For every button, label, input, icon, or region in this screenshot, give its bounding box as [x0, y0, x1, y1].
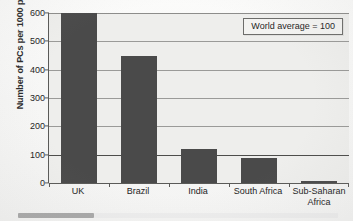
y-tick-mark-600: [45, 12, 49, 13]
bar-india: [181, 149, 217, 183]
y-tick-label-300: 300: [30, 93, 45, 103]
y-tick-mark-200: [45, 126, 49, 127]
x-axis-label-brazil: Brazil: [108, 186, 168, 197]
x-axis-label-south-africa-line1: South Africa: [228, 186, 288, 197]
y-tick-mark-500: [45, 41, 49, 42]
y-axis-title: Number of PCs per 1000 people: [15, 0, 25, 123]
bar-uk: [61, 13, 97, 183]
bar-south-africa: [241, 158, 277, 184]
y-tick-label-400: 400: [30, 65, 45, 75]
y-tick-label-500: 500: [30, 36, 45, 46]
y-tick-mark-300: [45, 97, 49, 98]
x-axis-label-south-africa: South Africa: [228, 186, 288, 197]
plot-area: 600 500 400 300 200 100 0 World average …: [48, 13, 349, 183]
x-axis-label-india-line1: India: [168, 186, 228, 197]
x-axis-label-uk-line1: UK: [48, 186, 108, 197]
y-tick-label-200: 200: [30, 121, 45, 131]
x-axis-label-sub-saharan-africa: Sub-Saharan Africa: [286, 186, 352, 207]
legend-world-average: World average = 100: [243, 18, 343, 35]
y-tick-mark-100: [45, 154, 49, 155]
y-tick-label-0: 0: [40, 178, 45, 188]
y-tick-label-600: 600: [30, 8, 45, 18]
bar-sub-saharan-africa: [301, 181, 337, 184]
horizontal-scrollbar[interactable]: [18, 213, 338, 218]
x-axis-label-india: India: [168, 186, 228, 197]
bar-chart: Number of PCs per 1000 people 600 500 40…: [0, 0, 353, 208]
legend-label: World average = 100: [251, 21, 335, 31]
scrollbar-thumb[interactable]: [18, 213, 94, 218]
y-tick-mark-400: [45, 69, 49, 70]
bar-brazil: [121, 56, 157, 184]
x-axis-label-sub-saharan-africa-line1: Sub-Saharan: [286, 186, 352, 197]
scanned-page-surface: ma adh Number of PCs per 1000 people 600…: [0, 0, 353, 221]
y-tick-label-100: 100: [30, 150, 45, 160]
x-axis-label-sub-saharan-africa-line2: Africa: [286, 197, 352, 208]
x-axis-label-uk: UK: [48, 186, 108, 197]
x-axis-label-brazil-line1: Brazil: [108, 186, 168, 197]
